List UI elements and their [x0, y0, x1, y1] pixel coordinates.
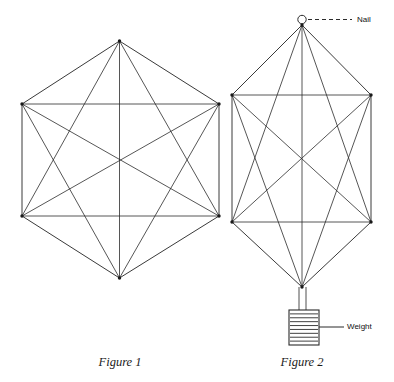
weight-block: [289, 310, 319, 345]
edge-upper-left-to-top: [22, 41, 120, 104]
figure-2-edges: [232, 25, 371, 287]
edge-top-to-upper-right: [302, 25, 371, 95]
edge-bottom-to-lower-left: [232, 222, 302, 287]
vertex-upper-right: [369, 93, 372, 96]
illustration-stage: Nail Weight Figure 1 Figure 2: [0, 0, 394, 382]
figure-1-edges: [22, 41, 219, 278]
vertex-upper-left: [20, 102, 23, 105]
vertex-lower-right: [369, 220, 372, 223]
vertex-bottom: [300, 285, 303, 288]
vertex-upper-left: [230, 93, 233, 96]
figures-svg: [0, 0, 394, 382]
edge-bottom-to-lower-left: [22, 216, 120, 278]
figure-2-caption: Figure 2: [262, 355, 342, 370]
nail-annotation-graphic: [298, 15, 352, 23]
figure-1-vertices: [20, 39, 220, 279]
edge-bottom-to-upper-left: [22, 104, 120, 278]
vertex-upper-right: [217, 102, 220, 105]
edge-lower-right-to-bottom: [120, 216, 220, 278]
vertex-lower-left: [230, 220, 233, 223]
weight-label: Weight: [347, 323, 372, 331]
edge-upper-left-to-top: [232, 25, 302, 95]
edge-lower-right-to-bottom: [302, 222, 371, 287]
figure-1-caption: Figure 1: [80, 355, 160, 370]
edge-top-to-upper-right: [120, 41, 220, 104]
vertex-lower-left: [20, 214, 23, 217]
nail-label: Nail: [357, 16, 371, 24]
edge-upper-right-to-bottom: [120, 104, 220, 278]
edge-top-to-lower-left: [22, 41, 120, 216]
nail-head-icon: [298, 15, 306, 23]
figure-2-vertices: [230, 23, 372, 288]
weight-annotation-graphic: [289, 287, 344, 345]
vertex-lower-right: [217, 214, 220, 217]
vertex-bottom: [118, 276, 121, 279]
vertex-top: [118, 39, 121, 42]
edge-top-to-lower-right: [120, 41, 220, 216]
